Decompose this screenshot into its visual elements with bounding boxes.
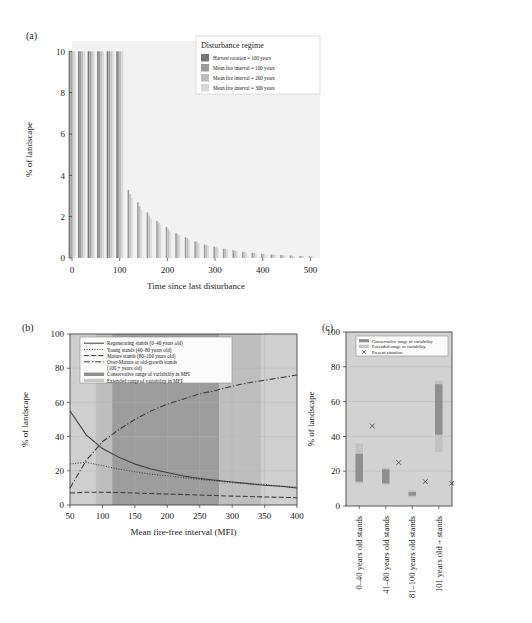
bar [284,256,286,258]
bar [244,252,246,258]
svg-text:200: 200 [161,511,175,521]
bar [97,51,99,258]
bar [312,257,314,258]
conservative-range-bar [356,454,364,482]
legend-swatch [201,74,209,82]
bar [233,250,235,258]
bar [168,229,170,258]
panel-c-chart: 020406080100% of landscape0–40 years old… [300,310,532,623]
bar [215,247,217,258]
bar [83,51,85,258]
bar [160,225,162,258]
bar [72,51,74,258]
variability-band [261,334,297,505]
legend-label: Harvest rotation = 100 years [213,55,271,61]
bar [246,252,248,258]
bar [137,202,139,258]
bar [187,238,189,258]
svg-text:350: 350 [258,511,272,521]
legend-swatch [84,373,104,376]
category-label: 101 years old + stands [434,516,444,592]
bar [139,206,141,258]
panel-a-ylabel: % of landscape [24,122,34,177]
bar [253,253,255,258]
bar [93,51,95,258]
legend-swatch [359,339,369,342]
bar [158,223,160,258]
legend-label: Mean fire interval = 200 years [213,75,275,81]
bar [271,254,273,258]
bar [252,253,254,258]
bar [128,190,130,258]
legend-swatch [201,54,209,62]
bar [69,51,71,258]
legend-swatch [201,84,209,92]
svg-text:4: 4 [61,171,66,181]
bar [82,51,84,258]
svg-text:2: 2 [61,212,66,222]
bar [99,51,101,258]
legend-label: Conservative range of variability [372,339,433,344]
bar [292,256,294,258]
category-label: 81–100 years old stands [407,516,417,598]
svg-text:60: 60 [331,397,341,407]
bar [265,254,267,258]
svg-text:0: 0 [336,501,341,511]
bar [255,253,257,258]
bar [213,247,215,258]
svg-text:500: 500 [304,265,318,275]
svg-text:40: 40 [331,432,341,442]
panel-a-xlabel: Time since last disturbance [147,281,245,291]
bar [141,209,143,258]
svg-text:20: 20 [331,466,341,476]
svg-text:100: 100 [327,327,341,337]
bar [204,245,206,258]
bar [80,51,82,258]
svg-text:0: 0 [70,265,75,275]
bar [131,198,133,258]
legend-label: Present situation [372,350,403,355]
category-label: 0–40 years old stands [354,516,364,589]
bar [293,256,295,258]
svg-text:50: 50 [66,511,76,521]
figure-container: (a) 02468100100200300400500Time since la… [0,0,532,623]
bar [88,51,90,258]
panel-b-xlabel: Mean fire-free interval (MFI) [130,527,236,537]
legend-swatch [359,345,369,348]
bar [225,249,227,258]
bar [147,213,149,258]
bar [274,255,276,258]
bar [272,255,274,258]
panel-b-chart: 02040608010050100150200250300350400Mean … [0,310,310,623]
bar [78,51,80,258]
svg-text:300: 300 [225,511,239,521]
conservative-range-bar [435,384,443,434]
bar [91,51,93,258]
bar [129,194,131,258]
bar [116,51,118,258]
category-label: 41–80 years old stands [381,516,391,594]
bar [196,242,198,258]
svg-text:250: 250 [193,511,207,521]
bar [207,246,209,258]
bar [179,236,181,258]
svg-text:400: 400 [256,265,270,275]
bar [150,219,152,258]
bar [118,51,120,258]
bar [177,234,179,258]
bar [263,254,265,258]
bar [311,257,313,258]
svg-text:20: 20 [55,466,65,476]
bar [70,51,72,258]
svg-text:100: 100 [51,329,65,339]
panel-c-ylabel: % of landscape [306,392,316,447]
svg-text:40: 40 [55,432,65,442]
bar [194,241,196,258]
bar [175,233,177,258]
bar [188,240,190,258]
bar [156,221,158,258]
legend-swatch [201,64,209,72]
svg-text:80: 80 [55,363,65,373]
svg-text:100: 100 [96,511,110,521]
svg-text:0: 0 [61,253,66,263]
